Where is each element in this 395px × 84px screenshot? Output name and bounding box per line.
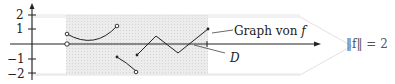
- y-tick-label-1: 1: [16, 22, 24, 36]
- closed-point: [116, 56, 119, 59]
- domain-label: D: [229, 51, 240, 65]
- open-point: [65, 42, 69, 46]
- closed-point: [207, 28, 210, 31]
- function-norm-diagram: 2 1 −1 −2 Graph von f D ‖f‖ = 2: [0, 0, 395, 84]
- x-axis-arrow-icon: [314, 42, 321, 47]
- norm-label: ‖f‖ = 2: [346, 37, 388, 51]
- open-point: [65, 32, 69, 36]
- y-tick-label-2: 2: [16, 8, 24, 22]
- y-axis-arrow-icon: [30, 3, 35, 9]
- open-point: [134, 70, 138, 74]
- y-tick-label-neg1: −1: [7, 52, 25, 66]
- graph-label: Graph von f: [234, 24, 308, 38]
- closed-point: [136, 54, 139, 57]
- open-point: [115, 24, 119, 28]
- y-tick-label-neg2: −2: [7, 67, 25, 81]
